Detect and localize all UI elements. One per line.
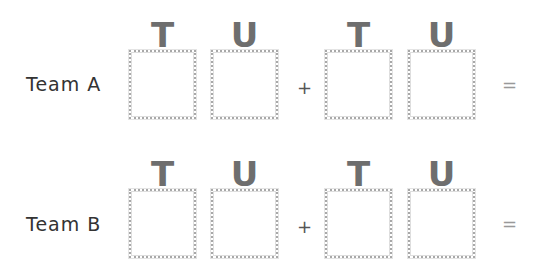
- tens-input-box[interactable]: [325, 189, 392, 258]
- tens-header: T: [325, 20, 392, 50]
- equation-row-team-a: Team A T U + T U =: [0, 0, 543, 130]
- units-input-box[interactable]: [408, 50, 475, 119]
- units-header: U: [408, 20, 475, 50]
- plus-sign: +: [297, 216, 312, 237]
- units-input-box[interactable]: [408, 189, 475, 258]
- equals-sign: =: [502, 213, 517, 234]
- units-header: U: [211, 20, 278, 50]
- equals-sign: =: [502, 74, 517, 95]
- units-input-box[interactable]: [211, 189, 278, 258]
- tens-header: T: [325, 159, 392, 189]
- tens-input-box[interactable]: [129, 189, 196, 258]
- units-header: U: [211, 159, 278, 189]
- team-label: Team A: [26, 73, 101, 95]
- tens-header: T: [129, 20, 196, 50]
- tens-header: T: [129, 159, 196, 189]
- plus-sign: +: [297, 77, 312, 98]
- units-input-box[interactable]: [211, 50, 278, 119]
- units-header: U: [408, 159, 475, 189]
- tens-input-box[interactable]: [325, 50, 392, 119]
- tens-input-box[interactable]: [129, 50, 196, 119]
- equation-row-team-b: Team B T U + T U =: [0, 139, 543, 269]
- team-label: Team B: [26, 213, 101, 235]
